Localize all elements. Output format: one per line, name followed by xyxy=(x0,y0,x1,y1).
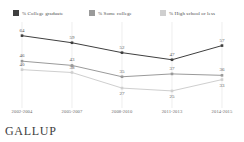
x-tick-label-2: 2008-2010 xyxy=(112,109,133,114)
point-value-label: 27 xyxy=(120,91,125,97)
data-point-marker[interactable] xyxy=(21,34,24,37)
plot-area: 645952475746433537364038272533 xyxy=(0,22,244,108)
data-point-marker[interactable] xyxy=(121,87,124,90)
data-point-marker[interactable] xyxy=(71,41,74,44)
data-point-marker[interactable] xyxy=(21,68,24,71)
data-point-marker[interactable] xyxy=(71,71,74,74)
chart-legend: % College graduate % Some college % High… xyxy=(0,7,244,21)
point-value-label: 59 xyxy=(70,35,75,41)
data-point-marker[interactable] xyxy=(121,51,124,54)
x-tick-label-4: 2014-2015 xyxy=(212,109,233,114)
point-value-label: 37 xyxy=(170,66,175,72)
data-point-marker[interactable] xyxy=(171,90,174,93)
x-axis-tick-labels: 2002-20042005-20072008-20102011-20132014… xyxy=(0,109,244,119)
point-value-label: 52 xyxy=(120,45,125,51)
data-point-marker[interactable] xyxy=(171,73,174,76)
chart-footer: GALLUP xyxy=(5,124,125,140)
x-tick-label-1: 2005-2007 xyxy=(62,109,83,114)
gallup-line-chart: % College graduate % Some college % High… xyxy=(0,0,244,142)
x-tick-label-3: 2011-2013 xyxy=(162,109,183,114)
point-value-label: 25 xyxy=(170,94,175,100)
legend-swatch-high-school-or-less xyxy=(160,10,166,16)
point-value-label: 35 xyxy=(120,69,125,75)
x-tick-label-0: 2002-2004 xyxy=(12,109,33,114)
legend-item-some-college[interactable]: % Some college xyxy=(89,7,132,19)
legend-swatch-college-graduate xyxy=(13,10,19,16)
point-value-label: 46 xyxy=(20,53,25,59)
gallup-wordmark: GALLUP xyxy=(5,124,125,138)
point-value-label: 43 xyxy=(70,57,75,63)
point-value-label: 36 xyxy=(220,67,225,73)
point-value-label: 47 xyxy=(170,52,175,58)
legend-item-college-graduate[interactable]: % College graduate xyxy=(13,7,63,19)
legend-label-college-graduate: % College graduate xyxy=(22,10,63,17)
data-point-marker[interactable] xyxy=(221,74,224,77)
legend-label-high-school-or-less: % High school or less xyxy=(169,10,215,17)
point-value-label: 40 xyxy=(20,62,25,68)
point-value-label: 64 xyxy=(20,28,25,34)
data-point-marker[interactable] xyxy=(121,75,124,78)
data-point-marker[interactable] xyxy=(221,78,224,81)
point-value-label: 33 xyxy=(220,83,225,89)
legend-item-high-school-or-less[interactable]: % High school or less xyxy=(160,7,215,19)
data-point-marker[interactable] xyxy=(221,44,224,47)
point-value-label: 38 xyxy=(70,65,75,71)
point-value-label: 57 xyxy=(220,38,225,44)
legend-label-some-college: % Some college xyxy=(98,10,132,17)
legend-swatch-some-college xyxy=(89,10,95,16)
data-point-marker[interactable] xyxy=(171,58,174,61)
